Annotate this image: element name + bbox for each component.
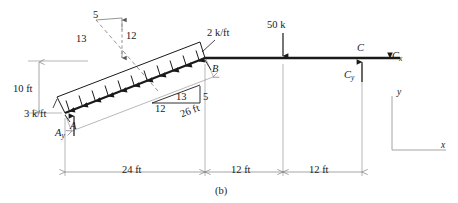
slope-tick-upper: [96, 18, 122, 20]
label-point-c: C: [357, 43, 364, 54]
distributed-load-left-cap: [57, 97, 65, 113]
label-point-a: A: [70, 121, 76, 132]
label-height-dimension: 10 ft: [13, 84, 33, 95]
label-reaction-cx: Cx: [392, 51, 402, 62]
leader-line-b: [205, 60, 211, 70]
leader-line-load-left: [53, 99, 57, 108]
label-slope-upper-vertical: 12: [126, 31, 137, 42]
label-reaction-cx-base: C: [392, 50, 399, 61]
label-reaction-cy-base: C: [344, 69, 351, 80]
free-body-diagram-figure: 10 ft 3 k/ft 2 k/ft 50 k A B C Ay Cy Cx …: [0, 0, 458, 203]
label-axis-y: y: [397, 88, 401, 98]
label-reaction-cx-subscript: x: [399, 54, 402, 63]
coordinate-axes: [392, 96, 446, 150]
figure-caption: (b): [215, 186, 227, 197]
label-reaction-cy-subscript: y: [351, 73, 354, 82]
label-reaction-ay: Ay: [55, 128, 65, 139]
label-span-2: 12 ft: [231, 165, 251, 176]
label-point-b: B: [212, 64, 218, 75]
label-slope-lower-hypotenuse: 13: [176, 92, 187, 103]
label-slope-lower-vertical: 5: [203, 92, 208, 103]
leader-line-load-right: [202, 40, 215, 52]
label-point-load: 50 k: [267, 20, 285, 31]
label-axis-x: x: [441, 141, 445, 151]
label-slope-upper-horizontal: 5: [93, 10, 98, 21]
label-slope-lower-horizontal: 12: [155, 104, 166, 115]
label-span-1: 24 ft: [122, 165, 142, 176]
label-span-3: 12 ft: [309, 165, 329, 176]
label-slope-upper-hypotenuse: 13: [76, 34, 87, 45]
label-load-left: 3 k/ft: [24, 109, 46, 120]
label-reaction-ay-subscript: y: [61, 131, 64, 140]
label-load-right: 2 k/ft: [207, 28, 229, 39]
label-reaction-cy: Cy: [344, 70, 354, 81]
